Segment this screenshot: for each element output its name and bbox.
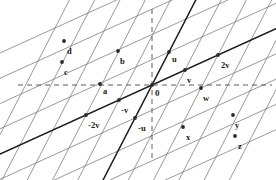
lattice-point-v — [183, 68, 187, 72]
point-label--2v: -2v — [88, 121, 100, 130]
lattice-point-origin — [150, 83, 154, 87]
lattice-point--v — [117, 98, 121, 102]
lattice-point-w — [199, 86, 203, 90]
point-label-u: u — [172, 55, 177, 64]
point-label-z: z — [238, 142, 242, 151]
point-label--u: -u — [138, 124, 146, 133]
lattice-point-u — [167, 50, 171, 54]
point-label-x: x — [186, 133, 190, 142]
grid-lines-u-direction — [0, 0, 276, 180]
lattice-point--u — [133, 116, 137, 120]
point-label-v: v — [187, 76, 191, 85]
lattice-point-a — [98, 82, 102, 86]
point-label-d: d — [67, 47, 72, 56]
lattice-point--2v — [84, 113, 88, 117]
point-label-w: w — [203, 94, 209, 103]
lattice-point-b — [116, 49, 120, 53]
lattice-diagram-canvas: 0uv2v-v-2v-uabcdwxyz — [0, 0, 276, 180]
point-label-y: y — [235, 121, 239, 130]
point-label-origin: 0 — [155, 89, 160, 98]
point-label-2v: 2v — [221, 61, 230, 70]
point-label--v: -v — [121, 106, 128, 115]
point-label-b: b — [120, 57, 125, 66]
point-label-c: c — [64, 68, 68, 77]
lattice-point-x — [181, 125, 185, 129]
lattice-point-z — [233, 134, 237, 138]
lattice-artwork — [0, 0, 276, 180]
lattice-point-c — [60, 60, 64, 64]
lattice-point-dots — [60, 39, 237, 138]
lattice-point-d — [62, 39, 66, 43]
lattice-point-2v — [216, 53, 220, 57]
lattice-point-y — [231, 113, 235, 117]
point-label-a: a — [103, 87, 107, 96]
